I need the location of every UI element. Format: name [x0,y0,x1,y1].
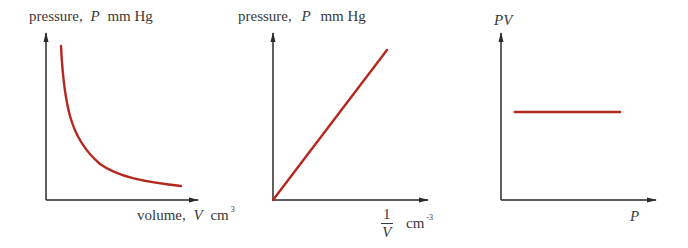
x-label-unit: cm [406,215,424,231]
fraction-denominator: V [382,224,391,240]
linear-line [273,50,387,200]
x-label-var: V [194,207,203,223]
x-label-exponent: -3 [426,213,433,222]
charts-canvas [0,0,688,248]
y-label-var: P [90,8,99,24]
y-label-unit: mm Hg [107,8,152,24]
x-axis-unit: cm-3 [406,214,433,231]
x-axis-fraction: 1 V [381,207,393,240]
y-axis-label: pressure, P mm Hg [238,9,366,24]
x-label-text: volume, [137,207,186,223]
hyperbola-curve [61,46,181,186]
x-label-exponent: 3 [231,205,235,214]
x-axis-label: volume, V cm3 [137,206,235,223]
panel-pressure-vs-inverse-volume [273,33,428,200]
panel-pv-vs-pressure [501,33,656,200]
y-axis-label: PV [494,13,512,28]
x-label-unit: cm [210,207,228,223]
y-label-unit: mm Hg [320,8,365,24]
y-axis-label: pressure, P mm Hg [29,9,153,24]
x-axis-label: P [630,209,639,224]
panel-pressure-vs-volume [46,33,198,200]
fraction-numerator: 1 [381,207,393,224]
y-label-text: pressure, [29,8,83,24]
y-label-text: pressure, [238,8,292,24]
y-label-var: P [301,8,310,24]
